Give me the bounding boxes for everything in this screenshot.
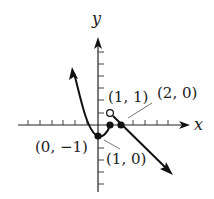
open-point-1-1: [107, 110, 114, 117]
y-axis: [94, 37, 104, 192]
point-1-0: [106, 121, 113, 128]
label-1-0: (1, 0): [106, 150, 146, 168]
y-axis-label: y: [91, 9, 102, 28]
graph-canvas: y x (1, 1) (2, 0) (0, −1) (1, 0): [0, 0, 214, 199]
x-axis: [18, 120, 190, 129]
curve-up-arrow-icon: [69, 67, 78, 80]
label-0-neg1: (0, −1): [35, 138, 88, 156]
point-0-neg1: [94, 132, 101, 139]
label-1-1: (1, 1): [108, 88, 148, 106]
x-axis-label: x: [194, 115, 203, 134]
point-2-0: [117, 121, 124, 128]
label-2-0: (2, 0): [157, 84, 197, 102]
leader-1-0: [104, 140, 120, 149]
y-axis-ticks: [98, 52, 104, 184]
curve-piece-left: [74, 73, 110, 137]
